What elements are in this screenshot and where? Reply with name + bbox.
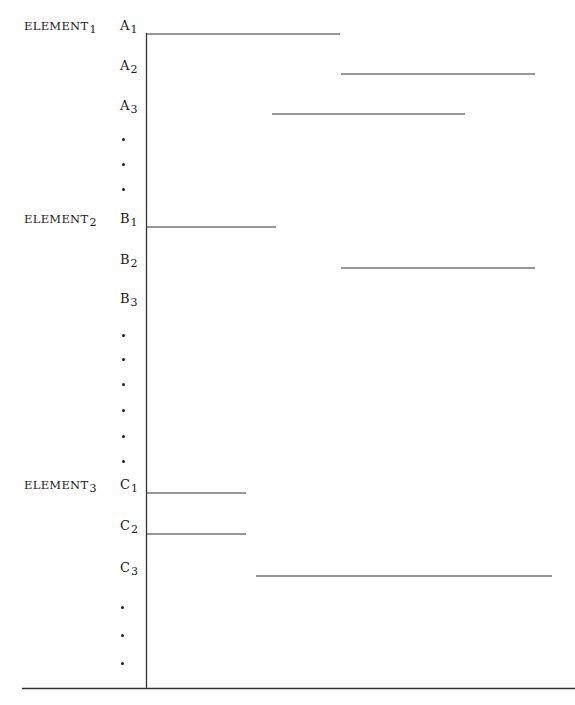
row-label-b3: B3 (120, 292, 138, 307)
ellipsis-dot (122, 383, 125, 386)
ellipsis-dot (122, 188, 125, 191)
row-label-a1: A1 (120, 19, 137, 34)
row-label-c2: C2 (120, 519, 138, 534)
row-label-b1: B1 (120, 212, 138, 227)
ellipsis-dot (121, 606, 124, 609)
ellipsis-dot (122, 163, 125, 166)
row-label-a3: A3 (120, 99, 137, 114)
ellipsis-dot (121, 634, 124, 637)
element-3-label: ELEMENT3 (24, 478, 97, 492)
element-2-label: ELEMENT2 (24, 212, 97, 226)
ellipsis-dot (122, 409, 125, 412)
ellipsis-dot (122, 460, 125, 463)
ellipsis-dot (122, 435, 125, 438)
row-label-a2: A2 (120, 59, 137, 74)
timeline-canvas (0, 0, 575, 705)
row-label-b2: B2 (120, 253, 138, 268)
row-label-c1: C1 (120, 478, 138, 493)
ellipsis-dot (122, 138, 125, 141)
row-label-c3: C3 (120, 561, 138, 576)
ellipsis-dot (122, 358, 125, 361)
ellipsis-dot (122, 334, 125, 337)
ellipsis-dot (121, 662, 124, 665)
element-1-label: ELEMENT1 (24, 19, 97, 33)
